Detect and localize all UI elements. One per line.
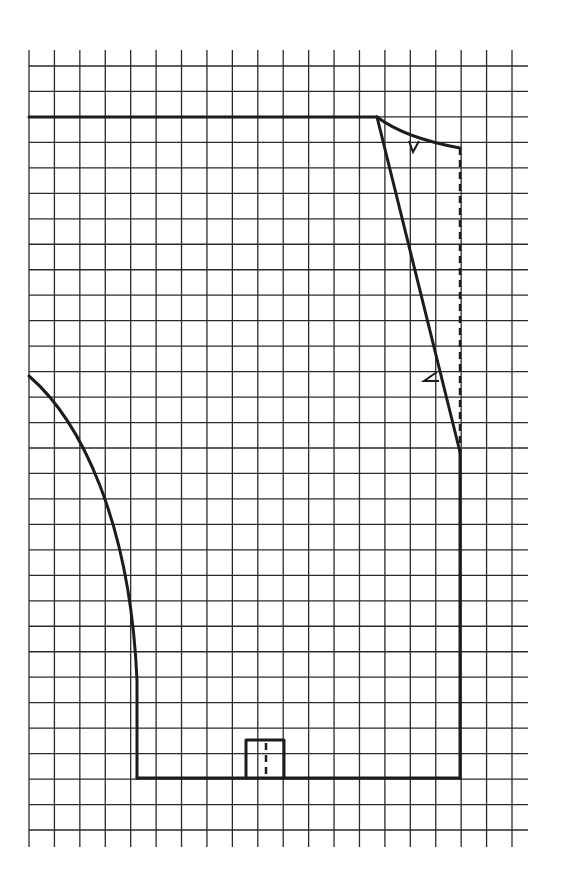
pattern-diagram	[0, 0, 563, 895]
armhole-curve	[29, 376, 137, 778]
grid	[29, 50, 528, 847]
front-edge-notch	[424, 372, 439, 381]
